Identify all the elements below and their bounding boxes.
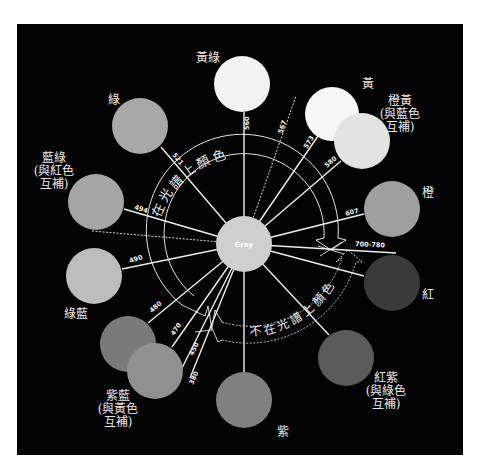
color-label-orange-yellow: 互補) bbox=[386, 120, 415, 134]
color-label-blue-green: 藍綠 bbox=[42, 151, 66, 165]
color-label-purple-blue-2: 互補) bbox=[104, 415, 133, 429]
color-circle-red-purple bbox=[318, 330, 374, 386]
color-label-purple-blue-2: 紫藍 bbox=[106, 389, 130, 403]
color-circle-green bbox=[112, 98, 168, 154]
color-wheel-diagram: 560567573580521494607700-780490480470450… bbox=[0, 0, 481, 473]
color-label-orange: 橙 bbox=[422, 185, 434, 200]
color-label-blue-green: 互補) bbox=[40, 177, 69, 191]
color-label-yellow-green: 黃綠 bbox=[196, 51, 220, 65]
wavelength-label: 700-780 bbox=[355, 240, 386, 250]
wavelength-label: 560 bbox=[243, 116, 251, 130]
color-label-orange-yellow: 橙黃 bbox=[388, 93, 412, 108]
color-label-purple-blue-2: (與黃色 bbox=[98, 402, 139, 416]
color-circle-purple bbox=[216, 372, 272, 428]
color-label-red: 紅 bbox=[422, 288, 434, 302]
color-circle-red bbox=[364, 255, 420, 311]
color-circle-yellow-green bbox=[214, 56, 270, 112]
color-label-red-purple: 互補) bbox=[372, 397, 401, 411]
color-label-cyan-blue: 綠藍 bbox=[64, 307, 88, 321]
color-circle-cyan-blue bbox=[66, 248, 122, 304]
color-label-purple: 紫 bbox=[277, 425, 289, 439]
color-label-green: 綠 bbox=[108, 93, 120, 107]
color-label-red-purple: (與綠色 bbox=[366, 384, 407, 398]
color-label-orange-yellow: (與藍色 bbox=[380, 107, 421, 121]
color-circle-orange-yellow bbox=[334, 113, 390, 169]
color-label-red-purple: 紅紫 bbox=[374, 371, 398, 385]
center-gray-label: Gray bbox=[235, 241, 254, 249]
color-label-blue-green: (與紅色 bbox=[34, 164, 75, 178]
color-circle-orange bbox=[364, 181, 420, 237]
color-label-yellow: 黃 bbox=[362, 77, 374, 91]
color-circle-purple-blue-2 bbox=[127, 343, 183, 399]
color-circle-blue-green bbox=[68, 174, 124, 230]
